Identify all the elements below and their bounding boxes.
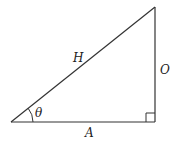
hypotenuse-label: H bbox=[72, 51, 84, 65]
angle-arc bbox=[28, 108, 33, 122]
angle-theta-label: θ bbox=[35, 106, 43, 120]
opposite-label: O bbox=[160, 63, 170, 77]
adjacent-label: A bbox=[84, 126, 94, 140]
right-triangle-diagram: H O A θ bbox=[0, 0, 176, 143]
right-angle-marker bbox=[146, 113, 155, 122]
